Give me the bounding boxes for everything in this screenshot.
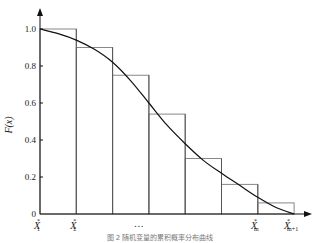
figure-caption: 图 2 随机变量的累积概率分布曲线 [107,233,214,242]
cdf-chart: 00.20.40.60.81.0 X*1X*2…X*mX*m+1 F(x) 图 … [0,0,321,243]
y-tick-label: 0.6 [25,98,37,108]
y-tick-label: 0 [32,209,37,219]
bar-2 [76,48,112,215]
x-axis-arrow [304,211,312,217]
x-tick-label: … [134,218,143,229]
bars-group [40,29,294,214]
bar-1 [40,29,76,214]
cdf-curve [40,29,294,214]
y-tick-label: 0.8 [25,61,37,71]
y-axis-label: F(x) [3,116,15,135]
x-tick-label: X*m [250,218,259,232]
y-axis-arrow [37,8,43,16]
bar-6 [222,184,258,214]
y-tick-label: 0.4 [25,135,37,145]
x-tick-label: X*1 [33,218,41,232]
x-tick-label: X*2 [69,218,77,232]
y-tick-label: 1.0 [25,24,37,34]
bar-5 [185,159,221,215]
x-ticks-group: X*1X*2…X*mX*m+1 [33,218,298,232]
bar-4 [149,114,185,214]
x-tick-label: X*m+1 [283,218,298,232]
axes-group [37,8,312,217]
y-tick-label: 0.2 [25,172,36,182]
